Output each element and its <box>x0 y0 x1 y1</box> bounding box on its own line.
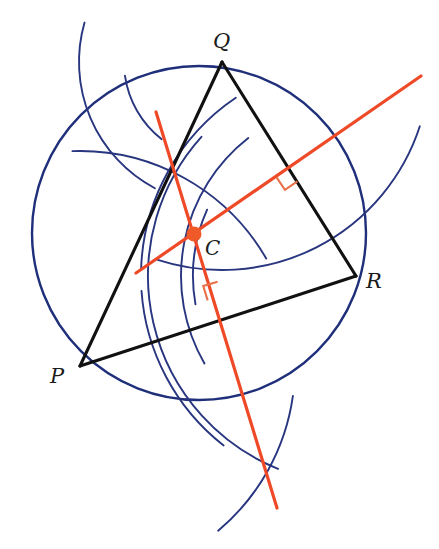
arc-from-P-lower <box>218 396 293 531</box>
construction-canvas: P Q R C <box>0 0 439 549</box>
circumcenter-dot-layer <box>187 227 202 242</box>
triangle-layer <box>80 62 356 366</box>
vertex-label-r: R <box>365 269 382 293</box>
arc-short-upper-left <box>125 76 162 140</box>
triangle-side-pq <box>80 62 222 366</box>
arc-from-R-upper <box>141 98 236 269</box>
vertex-label-p: P <box>49 364 65 388</box>
vertex-label-q: Q <box>213 29 230 53</box>
geometry-figure: P Q R C <box>0 0 439 549</box>
circumcenter-label: C <box>205 236 220 260</box>
circumcenter-dot <box>187 227 202 242</box>
arc-from-R-lower <box>142 291 224 445</box>
